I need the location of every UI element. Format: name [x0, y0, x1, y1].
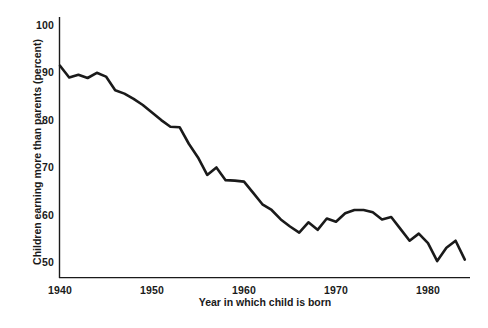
x-tick-1960: 1960 — [222, 284, 266, 296]
chart-plot-area — [0, 0, 488, 328]
x-tick-1950: 1950 — [130, 284, 174, 296]
chart-container: 100 90 80 70 60 50 1940 1950 1960 1970 1… — [0, 0, 488, 328]
x-tick-1980: 1980 — [406, 284, 450, 296]
x-tick-1970: 1970 — [314, 284, 358, 296]
x-tick-1940: 1940 — [38, 284, 82, 296]
x-axis-title: Year in which child is born — [60, 296, 470, 308]
y-axis-title: Children earning more than parents (perc… — [31, 29, 43, 275]
data-series-line — [60, 66, 465, 261]
